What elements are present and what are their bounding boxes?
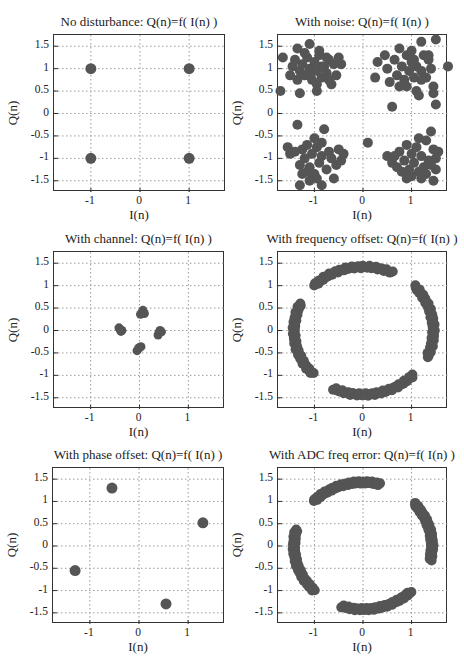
- data-point: [157, 327, 166, 336]
- data-point: [380, 50, 390, 60]
- data-point: [411, 142, 421, 152]
- y-tick-label: 1: [20, 493, 48, 505]
- data-point: [312, 174, 322, 184]
- plot-axes: [53, 34, 225, 191]
- x-tick-label: 1: [401, 194, 421, 206]
- x-tick-label: 0: [129, 411, 149, 423]
- data-point: [106, 483, 117, 494]
- data-point: [424, 50, 434, 60]
- plot-area: [54, 35, 226, 192]
- data-point: [416, 75, 426, 85]
- x-tick-label: -1: [303, 411, 323, 423]
- y-tick-label: 0.5: [245, 83, 273, 95]
- plot-area: [53, 468, 225, 624]
- data-point: [336, 59, 346, 69]
- y-tick-label: 1.5: [245, 471, 273, 483]
- plot-title: With noise: Q(n)=f( I(n) ): [237, 14, 464, 30]
- data-point: [382, 64, 392, 74]
- data-point: [184, 153, 195, 164]
- data-point: [426, 126, 436, 136]
- y-tick-label: 0.5: [21, 300, 49, 312]
- data-point: [402, 82, 412, 92]
- data-point: [292, 75, 302, 85]
- x-axis-label: I(n): [109, 424, 169, 440]
- y-tick-label: 1: [245, 61, 273, 73]
- x-axis-label: I(n): [332, 207, 392, 223]
- x-tick-label: -1: [79, 626, 99, 638]
- y-tick-label: -1: [245, 150, 273, 162]
- data-point: [275, 86, 285, 96]
- data-point: [322, 165, 332, 175]
- y-tick-label: 0: [21, 106, 49, 118]
- y-tick-label: 1: [21, 278, 49, 290]
- y-tick-label: -1.5: [21, 173, 49, 185]
- plot-title: With ADC freq error: Q(n)=f( I(n) ): [237, 447, 464, 463]
- data-point: [309, 368, 319, 378]
- y-tick-label: 0.5: [245, 516, 273, 528]
- y-tick-label: -0.5: [245, 560, 273, 572]
- data-point: [402, 174, 412, 184]
- data-point: [433, 147, 443, 157]
- y-tick-label: -0.5: [21, 345, 49, 357]
- data-point: [375, 478, 385, 488]
- data-point: [443, 61, 453, 71]
- x-axis-label: I(n): [109, 207, 169, 223]
- data-point: [416, 174, 426, 184]
- y-tick-label: -1: [21, 367, 49, 379]
- y-tick-label: -1.5: [245, 605, 273, 617]
- y-tick-label: -1: [245, 367, 273, 379]
- data-point: [310, 585, 320, 595]
- data-point: [292, 120, 302, 130]
- y-tick-label: 1: [21, 61, 49, 73]
- y-axis-label: Q(n): [5, 310, 21, 350]
- y-axis-label: Q(n): [4, 525, 20, 565]
- y-axis-label: Q(n): [5, 93, 21, 133]
- data-point: [363, 138, 373, 148]
- data-point: [70, 565, 81, 576]
- y-tick-label: -1: [20, 583, 48, 595]
- data-point: [317, 138, 327, 148]
- x-tick-label: 1: [401, 626, 421, 638]
- y-tick-label: -0.5: [245, 345, 273, 357]
- plot-area: [278, 252, 448, 409]
- data-point: [388, 267, 398, 277]
- y-tick-label: 1: [245, 493, 273, 505]
- data-point: [370, 73, 380, 83]
- data-point: [278, 52, 288, 62]
- plot-axes: [52, 467, 224, 623]
- y-tick-label: 0.5: [21, 83, 49, 95]
- data-point: [402, 140, 412, 150]
- x-tick-label: 0: [352, 626, 372, 638]
- data-point: [324, 75, 334, 85]
- y-tick-label: 1.5: [20, 471, 48, 483]
- data-point: [423, 352, 433, 362]
- data-point: [297, 144, 307, 154]
- y-tick-label: -0.5: [245, 128, 273, 140]
- data-point: [161, 598, 172, 609]
- data-point: [431, 100, 441, 110]
- x-axis-label: I(n): [332, 639, 392, 655]
- data-point: [407, 370, 417, 380]
- x-tick-label: -1: [80, 411, 100, 423]
- y-tick-label: 1.5: [245, 38, 273, 50]
- plot-axes: [277, 251, 447, 408]
- x-tick-label: 0: [352, 411, 372, 423]
- data-point: [322, 52, 332, 62]
- plot-title: With frequency offset: Q(n)=f( I(n) ): [237, 231, 464, 247]
- data-point: [302, 167, 312, 177]
- y-tick-label: -1.5: [20, 605, 48, 617]
- data-point: [184, 63, 195, 74]
- data-point: [390, 151, 400, 161]
- y-tick-label: 1.5: [21, 38, 49, 50]
- x-axis-label: I(n): [332, 424, 392, 440]
- data-point: [387, 102, 397, 112]
- x-tick-label: -1: [80, 194, 100, 206]
- plot-area: [54, 252, 225, 409]
- data-point: [85, 63, 96, 74]
- y-tick-label: -0.5: [20, 560, 48, 572]
- data-point: [319, 124, 329, 134]
- data-point: [428, 88, 438, 98]
- plot-title: No disturbance: Q(n)=f( I(n) ): [13, 14, 265, 30]
- data-point: [426, 160, 436, 170]
- x-tick-label: 0: [129, 194, 149, 206]
